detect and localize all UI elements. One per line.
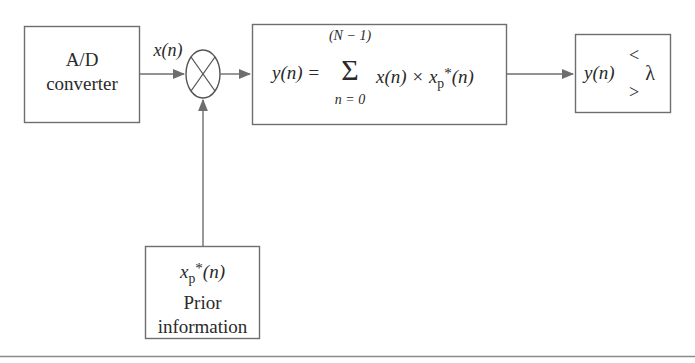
sum-lower-limit: n = 0 [320,92,380,108]
prior-line2: Prior [145,291,260,315]
term2-sup: * [444,64,452,81]
sum-symbol: Σ [330,53,370,87]
prior-signal: xp*(n) [145,256,260,291]
ad-label-line2: converter [24,72,140,96]
ad-label-line1: A/D [24,48,140,72]
signal-label: x(n) [148,40,188,60]
ad-converter-label: A/D converter [24,48,140,96]
threshold-lambda: λ [640,61,660,85]
multiplier-icon [186,50,220,98]
prior-information-label: xp*(n) Prior information [145,256,260,339]
greater-than-symbol: > [626,82,642,102]
prior-arg: (n) [203,261,225,282]
signal-var: x [154,40,162,60]
prior-line3: information [145,315,260,339]
signal-arg: (n) [162,40,183,60]
sum-upper-limit: (N − 1) [320,28,380,44]
equation-rhs: x(n) × xp*(n) [376,61,506,96]
term2-arg: (n) [452,66,474,87]
prior-sup: * [195,259,203,276]
term1: x(n) × [376,66,424,87]
